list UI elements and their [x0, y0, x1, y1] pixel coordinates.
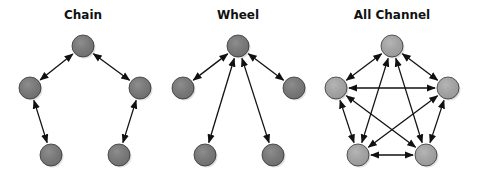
chain-network — [19, 35, 153, 168]
bidirectional-arrow — [362, 58, 388, 142]
bidirectional-arrow — [248, 54, 283, 80]
bidirectional-arrow — [402, 54, 437, 80]
bidirectional-arrow — [340, 100, 354, 142]
bidirectional-arrow — [93, 54, 129, 81]
bidirectional-arrow — [346, 96, 415, 147]
bidirectional-arrow — [34, 100, 47, 142]
bidirectional-arrow — [209, 58, 234, 142]
bidirectional-arrow — [193, 54, 227, 80]
bidirectional-arrow — [40, 54, 73, 80]
communication-networks-figure: Chain Wheel All Channel — [0, 0, 482, 182]
network-diagrams — [0, 0, 482, 182]
bidirectional-arrow — [396, 58, 422, 142]
bidirectional-arrow — [430, 100, 444, 142]
bidirectional-arrow — [368, 96, 437, 147]
bidirectional-arrow — [123, 100, 136, 142]
all-channel-network — [325, 35, 461, 168]
wheel-network — [172, 35, 307, 168]
bidirectional-arrow — [242, 58, 269, 142]
bidirectional-arrow — [346, 54, 381, 80]
